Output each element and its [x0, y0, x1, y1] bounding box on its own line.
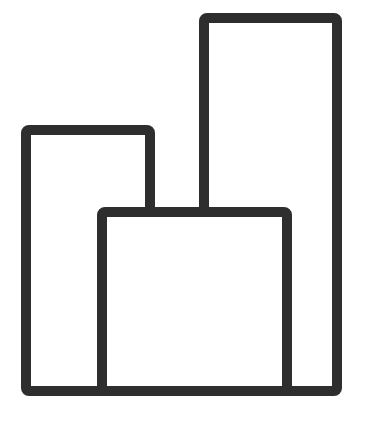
bar-chart-icon: [0, 0, 366, 424]
front-bar: [102, 212, 287, 391]
bar-chart-icon-canvas: [0, 0, 366, 424]
